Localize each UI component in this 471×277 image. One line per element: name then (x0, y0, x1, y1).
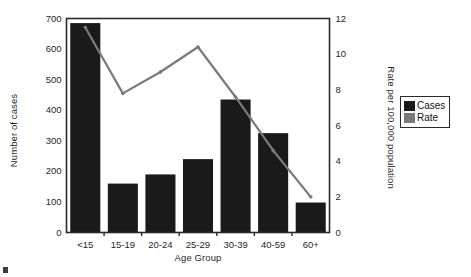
bar (108, 184, 138, 233)
chart-legend: CasesRate (400, 96, 450, 128)
chart-figure: Number of cases Rate per 100,000 populat… (0, 0, 471, 277)
bar (221, 100, 251, 233)
bar (70, 23, 100, 232)
legend-item: Cases (404, 100, 445, 112)
legend-item-label: Cases (417, 101, 445, 111)
bar (258, 133, 288, 232)
scan-artifact-mark (3, 267, 8, 273)
legend-item: Rate (404, 112, 445, 124)
legend-item-label: Rate (417, 113, 438, 123)
plot-area (0, 0, 471, 277)
legend-swatch-icon (404, 101, 415, 111)
legend-swatch-icon (404, 113, 415, 123)
bar (296, 203, 326, 233)
bar (183, 159, 213, 232)
bar (145, 174, 175, 232)
bars-group (70, 23, 325, 232)
